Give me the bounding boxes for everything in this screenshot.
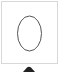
partial-icon	[0, 64, 59, 72]
ellipse-tool-button[interactable]: Ellipse	[1, 1, 58, 64]
shape-tool-palette: Ellipse	[0, 0, 59, 72]
ellipse-icon	[2, 2, 57, 63]
next-tool-button-partial[interactable]	[0, 64, 59, 72]
